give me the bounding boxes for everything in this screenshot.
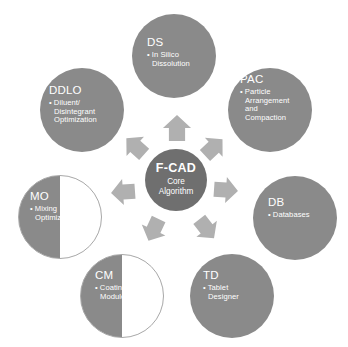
node-pac-desc: • Particle Arrangement and Compaction	[240, 88, 289, 122]
node-ddlo-desc: • Diluent/ Disintegrant Optimization	[49, 99, 97, 125]
arrow-to-mo-icon	[110, 178, 136, 206]
fcad-module-diagram: DS • In Silico Dissolution PAC • Particl…	[0, 0, 348, 347]
arrow-to-cm-icon	[137, 214, 171, 247]
node-mo-label: MO • Mixing Optimization	[30, 190, 78, 222]
node-ds-label: DS • In Silico Dissolution	[147, 36, 190, 68]
node-ds-title: DS	[147, 36, 190, 49]
node-ddlo-title: DDLO	[49, 84, 97, 97]
node-mo-desc: • Mixing Optimization	[30, 205, 78, 222]
arrow-to-db-icon	[213, 176, 239, 204]
node-db-title: DB	[268, 196, 310, 209]
node-cm-title: CM	[95, 269, 126, 282]
node-pac-label: PAC • Particle Arrangement and Compactio…	[240, 73, 289, 122]
arrow-to-td-icon	[189, 211, 224, 246]
node-cm-label: CM • Coating Module	[95, 269, 126, 301]
node-td-desc: • Tablet Designer	[203, 284, 239, 301]
node-fcad-core-label: F-CAD Core Algorithm	[145, 162, 207, 196]
node-ddlo-label: DDLO • Diluent/ Disintegrant Optimizatio…	[49, 84, 97, 125]
node-db-desc: • Databases	[268, 211, 310, 220]
node-db-label: DB • Databases	[268, 196, 310, 220]
node-mo-title: MO	[30, 190, 78, 203]
arrow-to-ddlo-icon	[118, 129, 153, 164]
node-cm-desc: • Coating Module	[95, 284, 126, 301]
node-td-label: TD • Tablet Designer	[203, 269, 239, 301]
node-td-title: TD	[203, 269, 239, 282]
node-ds-desc: • In Silico Dissolution	[147, 51, 190, 68]
node-pac-title: PAC	[240, 73, 289, 86]
arrow-to-pac-icon	[196, 130, 231, 165]
center-title: F-CAD	[145, 162, 207, 176]
arrow-to-ds-icon	[163, 115, 191, 141]
center-subtitle: Core Algorithm	[145, 177, 207, 197]
